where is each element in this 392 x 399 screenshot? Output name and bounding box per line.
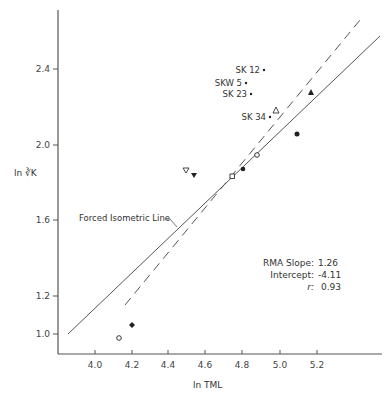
filled-circle-marker — [241, 167, 246, 172]
open-down-triangle-marker — [183, 168, 189, 173]
point-label-sk23: SK 23 — [223, 89, 248, 99]
dot-marker-sk23 — [250, 93, 252, 95]
isometric-line-label: Forced Isometric Line — [79, 213, 170, 223]
filled-triangle-marker — [308, 89, 314, 95]
data-points — [117, 69, 314, 341]
scatter-chart: 2.4 2.0 1.6 1.2 1.0 4.0 4.2 4.4 4.6 4.8 … — [0, 0, 392, 399]
x-tick-label: 5.0 — [273, 360, 288, 370]
open-triangle-marker — [273, 107, 279, 113]
open-circle-marker — [255, 153, 260, 158]
x-axis-label: ln TML — [193, 380, 222, 390]
y-tick-label: 1.2 — [36, 291, 50, 301]
rma-slope-label: RMA Slope: — [263, 258, 314, 268]
open-square-marker — [230, 174, 235, 179]
point-label-sk34: SK 34 — [242, 112, 267, 122]
y-ticks — [53, 69, 58, 334]
x-tick-label: 4.8 — [235, 360, 250, 370]
dot-marker-sk34 — [269, 116, 271, 118]
rma-slope-value: 1.26 — [318, 258, 338, 268]
intercept-label: Intercept: — [270, 270, 314, 280]
x-tick-label: 4.6 — [198, 360, 213, 370]
filled-circle-marker — [295, 132, 300, 137]
y-axis-label: ln ∛K — [14, 167, 38, 178]
x-tick-label: 4.0 — [88, 360, 103, 370]
x-tick-label: 5.2 — [310, 360, 324, 370]
r-value: 0.93 — [321, 282, 341, 292]
y-tick-label: 2.4 — [36, 64, 51, 74]
intercept-value: -4.11 — [318, 270, 341, 280]
x-tick-label: 4.2 — [125, 360, 139, 370]
dot-marker-sk12 — [263, 69, 265, 71]
y-tick-label: 2.0 — [36, 140, 51, 150]
y-tick-label: 1.0 — [36, 329, 51, 339]
point-label-sk12: SK 12 — [236, 65, 261, 75]
dot-marker-skw5 — [245, 82, 247, 84]
filled-down-triangle-marker — [191, 173, 197, 178]
y-tick-label: 1.6 — [36, 215, 51, 225]
x-tick-label: 4.4 — [161, 360, 176, 370]
point-label-skw5: SKW 5 — [215, 78, 242, 88]
filled-diamond-marker — [129, 322, 135, 328]
r-label: r: — [307, 282, 314, 292]
open-circle-marker — [117, 336, 122, 341]
